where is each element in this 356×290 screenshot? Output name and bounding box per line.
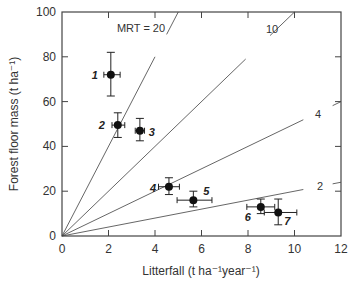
- data-point-marker: [257, 203, 265, 211]
- y-tick-label: 0: [49, 229, 56, 243]
- y-tick-label: 60: [43, 95, 57, 109]
- y-tick-label: 80: [43, 50, 57, 64]
- data-point-marker: [165, 183, 173, 191]
- scatter-chart: MRT = 201042 1234567 024681012 020406080…: [0, 0, 356, 290]
- point-label: 5: [203, 185, 210, 197]
- point-label: 2: [98, 119, 105, 131]
- x-axis-title: Litterfall (t ha⁻¹year⁻¹): [142, 264, 259, 278]
- x-axis-ticks: 024681012: [59, 12, 348, 256]
- y-tick-label: 100: [36, 5, 56, 19]
- point-label: 3: [149, 126, 155, 138]
- mrt-line: [333, 102, 341, 106]
- error-bars: [104, 52, 297, 224]
- x-tick-label: 12: [334, 242, 348, 256]
- mrt-line: [62, 120, 303, 236]
- mrt-line-label: 10: [266, 23, 278, 35]
- mrt-line: [333, 182, 341, 184]
- data-point-marker: [189, 196, 197, 204]
- mrt-line: [167, 12, 179, 34]
- mrt-line-label: 2: [317, 180, 323, 192]
- y-tick-label: 40: [43, 139, 57, 153]
- x-tick-label: 6: [198, 242, 205, 256]
- point-label: 1: [92, 69, 98, 81]
- point-label: 4: [149, 182, 156, 194]
- mrt-line-label: 4: [315, 108, 321, 120]
- data-point-marker: [114, 121, 122, 129]
- data-point-marker: [136, 127, 144, 135]
- y-tick-label: 20: [43, 184, 57, 198]
- x-tick-label: 0: [59, 242, 66, 256]
- data-points: [107, 71, 282, 217]
- y-axis-title: Forest floor mass (t ha⁻¹): [7, 57, 21, 191]
- x-tick-label: 10: [288, 242, 302, 256]
- mrt-line: [62, 57, 155, 236]
- mrt-line-label: MRT = 20: [117, 22, 165, 34]
- x-tick-label: 4: [152, 242, 159, 256]
- point-label: 7: [284, 215, 291, 227]
- x-tick-label: 2: [105, 242, 112, 256]
- mrt-line: [62, 59, 246, 236]
- data-point-marker: [274, 208, 282, 216]
- data-point-marker: [107, 71, 115, 79]
- x-tick-label: 8: [245, 242, 252, 256]
- point-label: 6: [245, 211, 252, 223]
